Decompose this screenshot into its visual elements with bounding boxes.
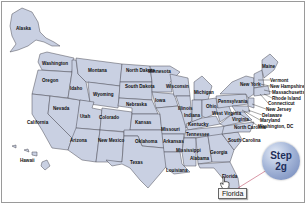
- state-tooltip: Florida: [218, 188, 247, 199]
- step-connector-line: [2, 2, 304, 202]
- map-frame: Alaska Washington Oregon California Neva…: [1, 1, 305, 203]
- step-badge-line1: Step: [270, 150, 292, 161]
- step-badge-line2: 2g: [275, 161, 287, 172]
- step-badge: Step 2g: [262, 142, 300, 180]
